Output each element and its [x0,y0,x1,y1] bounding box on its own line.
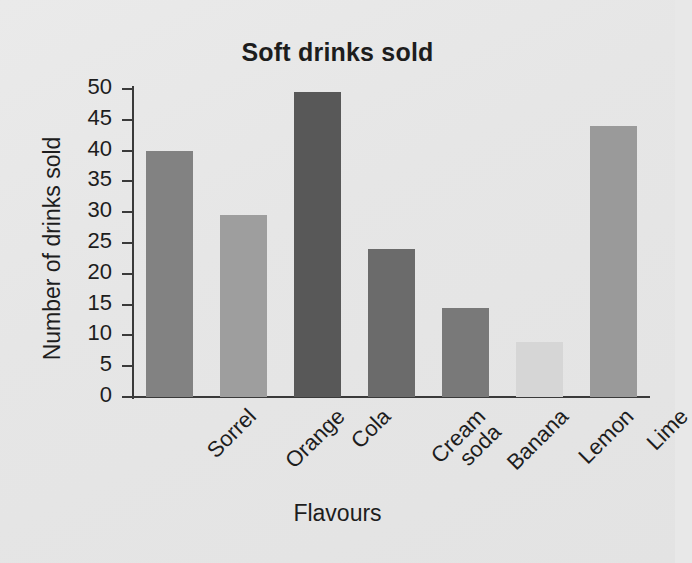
y-axis-tick-label: 5 [52,353,112,375]
x-axis-title: Flavours [0,500,675,527]
bar [220,215,267,397]
x-axis-tick-label: Lime [643,405,692,455]
y-axis-tick [122,150,133,152]
y-axis-tick [122,88,133,90]
x-axis-tick-label: Banana [504,405,574,475]
y-axis-tick-label: 10 [52,322,112,344]
y-axis-tick-label: 20 [52,261,112,283]
x-axis-tick-label: Cola [347,405,395,453]
bar [294,92,341,397]
y-axis-tick [122,242,133,244]
y-axis-tick-label: 15 [52,292,112,314]
bar [590,126,637,397]
y-axis-tick-label: 30 [52,199,112,221]
y-axis-tick [122,119,133,121]
bars-layer [133,89,650,397]
bar [146,151,193,397]
y-axis-tick [122,396,133,398]
x-axis-tick-label: Lemon [575,405,638,468]
bar [516,342,563,397]
y-axis-tick [122,365,133,367]
y-axis-tick [122,334,133,336]
y-axis-tick [122,211,133,213]
y-axis-tick-label: 25 [52,230,112,252]
y-axis-tick-label: 40 [52,138,112,160]
y-axis-tick [122,180,133,182]
y-axis-tick [122,304,133,306]
y-axis-tick [122,273,133,275]
bar [368,249,415,397]
y-axis-tick-label: 50 [52,76,112,98]
y-axis-tick-label: 45 [52,107,112,129]
x-axis-tick-label: Cream soda [427,405,505,483]
y-axis-tick-labels: 05101520253035404550 [52,0,112,563]
y-axis-tick-label: 35 [52,168,112,190]
bar [442,308,489,397]
x-axis-tick-label: Orange [281,405,349,473]
x-axis-tick-labels: SorrelOrangeColaCream sodaBananaLemonLim… [133,397,650,507]
y-axis-tick-label: 0 [52,384,112,406]
x-axis-tick-label: Sorrel [203,405,260,462]
